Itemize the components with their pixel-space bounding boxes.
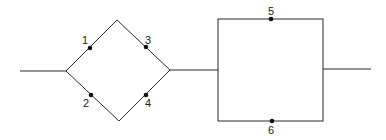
node-1 bbox=[88, 46, 93, 51]
node-label-5: 5 bbox=[268, 5, 274, 17]
rectangle-parallel-block bbox=[218, 19, 323, 121]
node-label-6: 6 bbox=[268, 124, 274, 136]
diagram-svg: 1 2 3 4 5 6 bbox=[0, 0, 386, 140]
node-5 bbox=[269, 17, 274, 22]
diamond-lower-branch bbox=[66, 70, 170, 121]
node-label-3: 3 bbox=[145, 34, 151, 46]
network-diagram: 1 2 3 4 5 6 bbox=[0, 0, 386, 140]
node-2 bbox=[89, 93, 94, 98]
node-6 bbox=[270, 119, 275, 124]
node-label-2: 2 bbox=[83, 97, 89, 109]
node-label-4: 4 bbox=[145, 97, 151, 109]
node-label-1: 1 bbox=[82, 34, 88, 46]
